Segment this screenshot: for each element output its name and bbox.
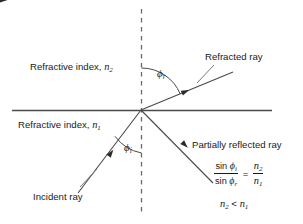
equation-rhs-denominator: n1 xyxy=(253,174,264,187)
refraction-angle-subscript: r xyxy=(163,72,166,81)
equation-lhs-numerator-fn: sin xyxy=(215,161,229,171)
refracted-ray-leader-line xyxy=(197,65,214,83)
equation-lhs-numerator: sin ϕi xyxy=(214,160,238,174)
equation-lhs-denominator-fn: sin xyxy=(215,176,229,186)
reflected-ray-arrow-group xyxy=(180,140,189,149)
incident-ray-label: Incident ray xyxy=(33,192,83,202)
refractive-index-upper-subscript: 2 xyxy=(109,66,113,74)
refractive-index-upper-prefix: Refractive index, xyxy=(30,61,104,72)
incident-ray-leader-line xyxy=(80,169,97,187)
equation-rhs-numerator: n2 xyxy=(253,160,264,174)
refracted-ray-label: Refracted ray xyxy=(205,52,263,62)
equation-lhs-numerator-subscript: i xyxy=(235,165,237,173)
refractive-index-lower-label: Refractive index, n1 xyxy=(18,120,101,132)
equation-rhs-numerator-subscript: 2 xyxy=(259,165,263,173)
incident-ray-label-text: Incident ray xyxy=(33,191,83,202)
refracted-ray-arrow-group xyxy=(181,88,190,96)
refracted-ray-label-text: Refracted ray xyxy=(205,51,263,62)
refracted-ray-arrowhead xyxy=(0,0,8,3)
refractive-index-lower-subscript: 1 xyxy=(97,124,101,132)
equation-rhs-fraction: n2 n1 xyxy=(253,160,264,187)
snells-law-equation: sin ϕi sin ϕr = n2 n1 xyxy=(214,160,263,187)
equation-equals-sign: = xyxy=(243,168,249,179)
refractive-index-upper-label: Refractive index, n2 xyxy=(30,62,113,74)
index-inequality: n2 < n1 xyxy=(220,198,248,211)
refractive-index-lower-prefix: Refractive index, xyxy=(18,119,92,130)
equation-lhs-denominator: sin ϕr xyxy=(214,174,238,187)
equation-rhs-denominator-subscript: 1 xyxy=(259,179,263,187)
refraction-diagram-figure: Refracted ray Refractive index, n2 Refra… xyxy=(0,0,303,224)
inequality-operator: < xyxy=(229,198,240,209)
partially-reflected-ray-label: Partially reflected ray xyxy=(192,140,282,150)
incidence-angle-subscript: i xyxy=(130,146,132,155)
partially-reflected-ray-label-text: Partially reflected ray xyxy=(192,139,282,150)
equation-lhs-denominator-subscript: r xyxy=(235,179,238,187)
equation-lhs-fraction: sin ϕi sin ϕr xyxy=(214,160,238,187)
inequality-right-subscript: 1 xyxy=(245,203,249,211)
incidence-angle-label: ϕi xyxy=(124,142,132,154)
refraction-angle-label: ϕr xyxy=(157,68,166,80)
